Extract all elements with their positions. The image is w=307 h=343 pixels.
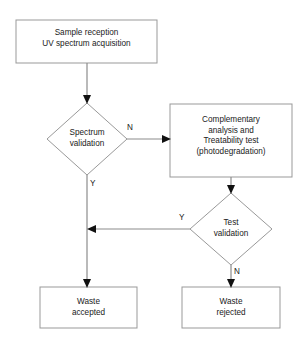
flowchart-graphics	[0, 0, 307, 343]
edge-label-test-yes: Y	[179, 213, 184, 222]
edge-label-test-no: N	[234, 267, 240, 276]
node-spectrum-validation	[47, 103, 127, 175]
node-sample-reception	[16, 20, 157, 63]
node-complementary-analysis	[170, 104, 292, 177]
arrow-head-test-to-waste-accepted	[87, 225, 96, 233]
flowchart-canvas: Sample reception UV spectrum acquisition…	[0, 0, 307, 343]
node-waste-accepted	[40, 287, 137, 328]
cropped-caption-strip	[0, 335, 307, 343]
edge-label-spectrum-no: N	[127, 123, 133, 132]
node-waste-rejected	[182, 287, 280, 328]
edge-label-spectrum-yes: Y	[90, 179, 95, 188]
node-test-validation	[190, 193, 272, 265]
arrow-head-complementary-to-test	[227, 185, 235, 194]
arrow-head-sample-to-spectrum	[83, 95, 91, 104]
